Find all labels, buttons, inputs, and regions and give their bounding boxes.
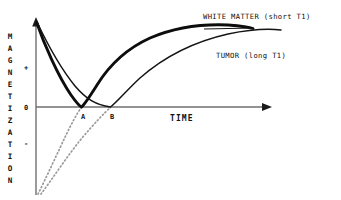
y-axis-title-letter: G [8,56,13,65]
chart-svg: M A G N E T I Z A T I O N + 0 - A B TIME… [0,0,341,200]
y-tick-label-zero: 0 [24,104,28,112]
white-matter-curve [37,22,254,107]
white-matter-inverted-dotted-curve [38,108,82,195]
null-point-b-label: B [110,113,114,121]
y-axis-title-letter: M [8,32,13,41]
y-axis-title-letter: I [8,152,13,161]
x-axis-arrow-icon [262,103,272,111]
y-axis-title-letter: T [8,92,13,101]
tumor-inverted-dotted-curve [41,108,111,195]
y-axis-title-letter: N [8,68,13,77]
y-axis-title-letter: E [8,80,13,89]
white-matter-leader-line [204,28,253,29]
null-point-a-label: A [81,113,86,121]
y-axis-title-letter: N [8,176,13,185]
tumor-series-label: TUMOR (long T1) [216,51,286,60]
y-tick-label-minus: - [24,140,28,148]
y-tick-label-plus: + [24,64,28,72]
y-axis-title-letter: A [8,44,13,53]
magnetization-recovery-chart: M A G N E T I Z A T I O N + 0 - A B TIME… [0,0,341,200]
y-axis-title-letter: Z [8,116,13,125]
y-axis-title-letter: A [8,128,13,137]
y-axis-title-letter: T [8,140,13,149]
white-matter-series-label: WHITE MATTER (short T1) [203,12,311,21]
y-axis-title-letter: I [8,104,13,113]
y-axis-title-letter: O [8,164,13,173]
x-axis-title: TIME [170,114,194,123]
